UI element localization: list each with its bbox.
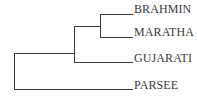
leaf-label-maratha: MARATHA bbox=[134, 26, 194, 38]
dendrogram-figure: BRAHMIN MARATHA GUJARATI PARSEE bbox=[0, 0, 197, 101]
leaf-label-parsee: PARSEE bbox=[134, 79, 178, 91]
leaf-label-brahmin: BRAHMIN bbox=[134, 3, 191, 15]
leaf-label-gujarati: GUJARATI bbox=[134, 52, 192, 64]
